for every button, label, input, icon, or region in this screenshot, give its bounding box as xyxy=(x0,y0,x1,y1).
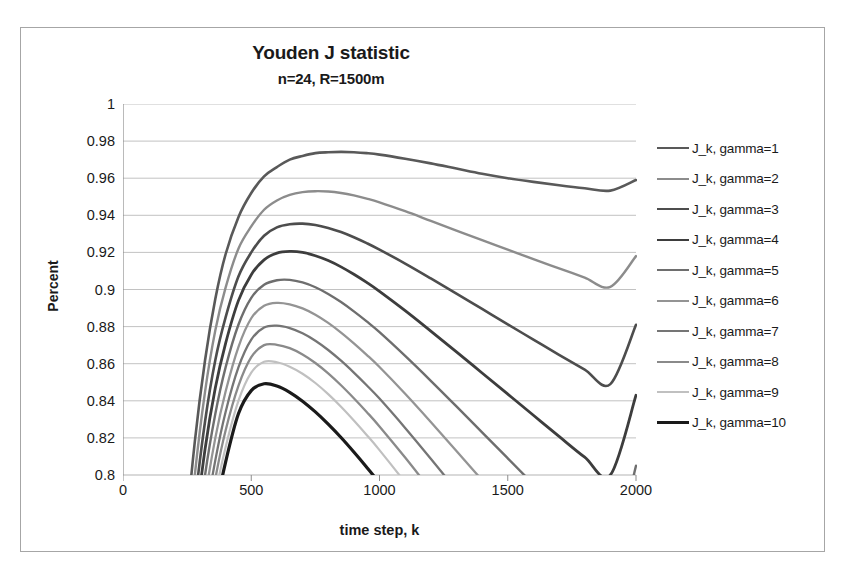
legend-item-gamma-1[interactable]: J_k, gamma=1 xyxy=(657,133,832,164)
legend-item-label: J_k, gamma=6 xyxy=(692,293,779,308)
legend-color-swatch xyxy=(657,178,689,180)
legend-color-swatch xyxy=(657,391,689,393)
legend-color-swatch xyxy=(657,330,689,332)
legend-item-label: J_k, gamma=2 xyxy=(692,171,779,186)
series-line-2 xyxy=(174,191,636,483)
y-tick-label: 0.9 xyxy=(57,283,115,297)
legend-color-swatch xyxy=(657,361,689,363)
y-tick-label: 1 xyxy=(57,97,115,111)
y-tick-label: 0.84 xyxy=(57,394,115,408)
legend-item-gamma-2[interactable]: J_k, gamma=2 xyxy=(657,164,832,195)
legend-item-label: J_k, gamma=8 xyxy=(692,354,779,369)
y-tick-label: 0.88 xyxy=(57,320,115,334)
legend-item-label: J_k, gamma=9 xyxy=(692,385,779,400)
y-tick-label: 0.98 xyxy=(57,134,115,148)
legend-item-label: J_k, gamma=4 xyxy=(692,232,779,247)
legend-item-gamma-9[interactable]: J_k, gamma=9 xyxy=(657,377,832,408)
series-line-9 xyxy=(174,361,636,483)
legend-item-gamma-7[interactable]: J_k, gamma=7 xyxy=(657,316,832,347)
legend-item-label: J_k, gamma=3 xyxy=(692,202,779,217)
chart-title: Youden J statistic xyxy=(21,42,641,64)
legend-color-swatch xyxy=(657,239,689,241)
legend-color-swatch xyxy=(657,208,689,210)
legend-color-swatch xyxy=(657,147,689,149)
legend-item-label: J_k, gamma=10 xyxy=(692,415,786,430)
plot-area xyxy=(123,104,636,475)
legend-item-gamma-8[interactable]: J_k, gamma=8 xyxy=(657,347,832,378)
x-tick-label: 500 xyxy=(221,483,281,497)
legend-item-gamma-10[interactable]: J_k, gamma=10 xyxy=(657,408,832,439)
x-tick-label: 1500 xyxy=(478,483,538,497)
x-tick-label: 0 xyxy=(93,483,153,497)
legend-color-swatch xyxy=(657,300,689,302)
series-line-8 xyxy=(174,344,636,483)
series-line-10 xyxy=(174,384,636,483)
x-tick-label: 1000 xyxy=(350,483,410,497)
y-tick-label: 0.92 xyxy=(57,245,115,259)
legend-color-swatch xyxy=(657,421,689,424)
legend-item-gamma-4[interactable]: J_k, gamma=4 xyxy=(657,225,832,256)
chart-container: Youden J statistic n=24, R=1500m Percent… xyxy=(20,27,825,552)
legend-color-swatch xyxy=(657,269,689,271)
y-tick-label: 0.94 xyxy=(57,208,115,222)
legend-item-label: J_k, gamma=5 xyxy=(692,263,779,278)
y-tick-label: 0.8 xyxy=(57,468,115,482)
chart-subtitle: n=24, R=1500m xyxy=(21,70,641,87)
legend-item-label: J_k, gamma=7 xyxy=(692,324,779,339)
series-line-4 xyxy=(174,251,636,483)
legend-item-label: J_k, gamma=1 xyxy=(692,141,779,156)
legend-item-gamma-5[interactable]: J_k, gamma=5 xyxy=(657,255,832,286)
legend-item-gamma-3[interactable]: J_k, gamma=3 xyxy=(657,194,832,225)
y-tick-label: 0.82 xyxy=(57,431,115,445)
series-line-1 xyxy=(174,152,636,483)
x-axis-title: time step, k xyxy=(123,522,636,538)
y-tick-label: 0.96 xyxy=(57,171,115,185)
y-tick-label: 0.86 xyxy=(57,357,115,371)
legend-item-gamma-6[interactable]: J_k, gamma=6 xyxy=(657,286,832,317)
chart-legend: J_k, gamma=1J_k, gamma=2J_k, gamma=3J_k,… xyxy=(657,133,832,438)
x-tick-label: 2000 xyxy=(606,483,666,497)
